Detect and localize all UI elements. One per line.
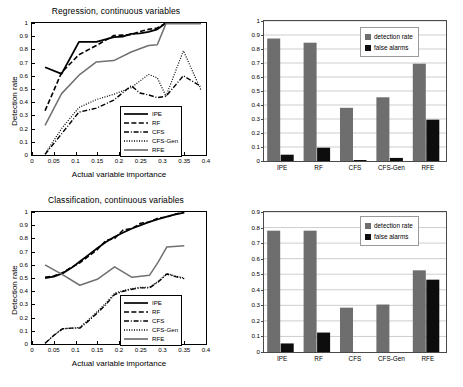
y-tick-mark [32,225,35,226]
y-tick-mark [261,161,264,162]
legend-label: CFS-Gen [152,325,178,334]
legend-label: detection rate [374,220,413,231]
y-tick-label: 0.7 [238,59,260,66]
bar-detection-rate-ipe [267,231,280,352]
legend-color-swatch-icon [365,45,371,51]
y-tick-mark [261,77,264,78]
x-tick-label: 0.15 [86,346,108,353]
y-tick-mark [261,305,264,306]
legend-line-swatch-icon [123,110,149,118]
y-tick-mark [32,265,35,266]
bar-detection-rate-rf [304,43,317,161]
y-tick-mark [261,336,264,337]
y-tick-mark [261,352,264,353]
x-tick-mark [184,341,185,344]
x-tick-mark [76,341,77,344]
y-tick-mark [261,49,264,50]
y-tick-mark [32,115,35,116]
legend-item: RFE [123,145,178,154]
legend-item: RF [123,307,178,316]
x-tick-label: 0.35 [173,157,195,164]
y-tick-label: 0.7 [238,239,260,246]
legend-item: CFS-Gen [123,325,178,334]
bar-false-alarms-ipe [281,155,294,161]
bar-false-alarms-rf [317,148,330,161]
y-tick-label: 0.5 [238,270,260,277]
line-legend: IPERFCFSCFS-GenRFE [120,295,182,346]
y-tick-mark [261,212,264,213]
x-tick-label: 0.3 [152,157,174,164]
x-tick-label: 0 [21,157,43,164]
bar-false-alarms-rf [317,333,330,352]
legend-line-swatch-icon [123,308,149,316]
y-tick-label: 0.4 [238,286,260,293]
legend-item: detection rate [365,31,413,42]
y-tick-mark [32,49,35,50]
y-tick-mark [32,89,35,90]
y-tick-label: 0.1 [238,332,260,339]
legend-item: IPE [123,298,178,307]
y-tick-label: 0.5 [238,87,260,94]
legend-label: IPE [152,298,162,307]
x-tick-mark [206,152,207,155]
y-tick-mark [32,155,35,156]
y-axis-label: Detection rate [10,265,19,315]
bar-detection-rate-rfe [413,270,426,352]
bar-false-alarms-cfs [354,160,367,161]
y-tick-label: 1 [6,19,28,26]
x-tick-label: 0.2 [108,157,130,164]
bar-detection-rate-cfs-gen [376,97,389,161]
y-tick-label: 0.6 [238,73,260,80]
y-tick-label: 0.2 [238,317,260,324]
y-tick-mark [32,129,35,130]
x-axis-label: Actual variable importance [31,359,207,368]
legend-color-swatch-icon [365,34,371,40]
y-tick-label: 0.8 [6,45,28,52]
x-tick-label: 0 [21,346,43,353]
legend-line-swatch-icon [123,317,149,325]
y-tick-mark [261,63,264,64]
x-tick-label: 0.3 [152,346,174,353]
legend-line-swatch-icon [123,119,149,127]
x-tick-mark [184,152,185,155]
legend-line-swatch-icon [123,137,149,145]
bar-legend: detection ratefalse alarms [360,27,419,57]
x-tick-mark [206,341,207,344]
y-tick-label: 0.6 [238,255,260,262]
y-tick-label: 0.7 [6,248,28,255]
y-tick-label: 0 [238,348,260,355]
legend-line-swatch-icon [123,128,149,136]
y-tick-label: 0.8 [238,224,260,231]
bar-detection-rate-cfs-gen [376,305,389,352]
x-tick-mark [32,341,33,344]
line-legend: IPERFCFSCFS-GenRFE [120,106,182,157]
x-tick-label: 0.25 [130,157,152,164]
legend-item: detection rate [365,220,413,231]
legend-label: CFS-Gen [152,136,178,145]
series-line-ipe [45,23,201,74]
y-tick-label: 0.9 [6,221,28,228]
y-tick-mark [32,102,35,103]
y-tick-label: 0.9 [238,31,260,38]
x-tick-label: 0.35 [173,346,195,353]
y-tick-label: 0.4 [238,101,260,108]
y-tick-mark [261,147,264,148]
y-tick-mark [261,259,264,260]
y-tick-mark [32,212,35,213]
y-tick-mark [261,290,264,291]
legend-label: CFS [152,316,164,325]
y-tick-mark [261,321,264,322]
x-tick-mark [54,341,55,344]
legend-label: detection rate [374,31,413,42]
panel-classification-bar-chart: 00.10.20.30.40.50.60.70.80.9IPERFCFSCFS-… [232,191,463,387]
bar-false-alarms-rfe [426,120,439,161]
y-tick-label: 0.2 [238,129,260,136]
y-tick-mark [32,344,35,345]
plot-area [263,20,447,162]
y-tick-mark [261,243,264,244]
y-tick-mark [261,274,264,275]
y-tick-mark [32,63,35,64]
bar-false-alarms-cfs-gen [390,158,403,161]
y-tick-label: 0.8 [238,45,260,52]
legend-label: CFS [152,127,164,136]
